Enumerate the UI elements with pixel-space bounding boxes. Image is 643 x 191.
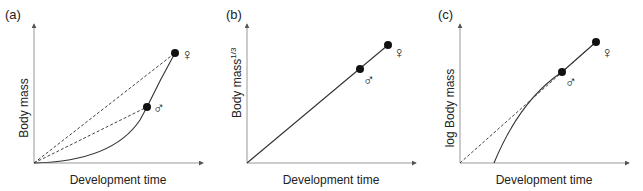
panel-c: (c) log Body mass Development time ♀ ♂ [438,7,629,187]
panel-b-tag: (b) [226,7,242,22]
female-symbol: ♀ [181,46,193,63]
female-symbol: ♀ [601,44,613,61]
y-axis-label: Body mass [17,78,31,137]
figure: (a) Body mass Development time ♀ ♂ (b) B… [0,0,643,191]
x-axis-label: Development time [283,173,380,187]
y-axis-label: log Body mass [443,69,457,148]
female-marker [592,38,600,46]
panel-a-tag: (a) [5,7,21,22]
male-symbol: ♂ [363,71,375,88]
female-symbol: ♀ [393,44,405,61]
female-marker [384,41,392,49]
male-symbol: ♂ [565,73,577,90]
female-marker [171,49,179,57]
y-axis-label: Body mass1/3 [229,47,244,118]
panel-a: (a) Body mass Development time ♀ ♂ [5,7,203,187]
growth-curve [494,42,596,163]
panel-b: (b) Body mass1/3 Development time ♀ ♂ [226,7,416,187]
panel-c-tag: (c) [438,7,453,22]
male-symbol: ♂ [153,99,165,116]
x-axis-label: Development time [496,173,593,187]
x-axis-label: Development time [70,173,167,187]
male-marker [143,103,151,111]
growth-line [247,45,388,163]
